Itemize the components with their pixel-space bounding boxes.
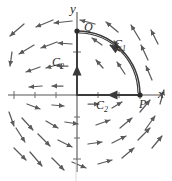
field-arrow — [22, 118, 33, 130]
field-arrow — [92, 38, 102, 45]
field-arrow — [16, 128, 25, 142]
field-arrow — [131, 25, 140, 40]
point-label-P: P — [139, 98, 146, 110]
field-arrow — [120, 118, 132, 128]
path-C1-arc — [77, 31, 140, 95]
path-label-C2-vertical-subscript: 2 — [60, 62, 64, 71]
field-arrow — [46, 121, 58, 128]
point-Q-dot — [74, 28, 79, 33]
path-label-C1-base: C — [114, 37, 122, 51]
field-arrow — [138, 128, 150, 140]
field-arrow — [146, 66, 152, 80]
field-arrow — [72, 162, 86, 168]
field-arrow — [151, 30, 158, 44]
field-arrow — [54, 21, 72, 23]
field-arrow — [10, 52, 12, 66]
field-arrow — [106, 22, 118, 32]
field-arrow — [122, 148, 134, 158]
vector-field-figure: y x Q P C1 C2 C2 — [0, 0, 172, 181]
field-arrow — [9, 112, 14, 126]
field-arrow — [30, 152, 42, 166]
point-label-Q: Q — [84, 21, 93, 33]
y-axis-label: y — [70, 2, 76, 15]
path-label-C2-horizontal-base: C — [96, 98, 104, 112]
field-arrow — [88, 142, 102, 144]
field-arrow — [41, 42, 57, 48]
field-arrow — [65, 122, 78, 124]
field-arrow — [152, 136, 162, 148]
field-arrow — [52, 105, 64, 106]
field-arrow — [26, 67, 40, 72]
path-label-C2-vertical: C2 — [52, 56, 64, 71]
field-arrow — [58, 140, 72, 147]
field-arrow — [27, 104, 40, 109]
field-arrow — [10, 24, 24, 36]
field-arrow — [96, 120, 110, 125]
field-arrow — [36, 20, 53, 27]
field-arrow — [38, 134, 50, 146]
x-axis-label: x — [158, 87, 164, 100]
field-arrow — [96, 60, 103, 68]
path-label-C2-horizontal-subscript: 2 — [104, 105, 108, 114]
path-label-C2-horizontal: C2 — [96, 99, 108, 114]
field-arrow — [19, 45, 34, 54]
path-label-C1-subscript: 1 — [122, 44, 126, 53]
field-arrow — [117, 62, 125, 74]
field-arrow — [141, 45, 148, 60]
field-arrow — [58, 43, 72, 44]
field-arrow — [14, 148, 26, 160]
field-arrow — [112, 136, 126, 143]
field-arrow — [29, 86, 42, 87]
field-arrow — [98, 160, 112, 164]
path-label-C1: C1 — [114, 38, 126, 53]
field-arrow — [112, 102, 122, 108]
path-label-C2-vertical-base: C — [52, 55, 60, 69]
field-arrow — [52, 158, 64, 170]
